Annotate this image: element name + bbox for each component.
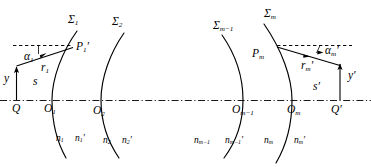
angle-label-alpha-1: α1 <box>24 51 34 64</box>
object-point-label-q: Q <box>12 103 20 115</box>
ray-point-label-p-1: P1′ <box>76 41 89 54</box>
surface-label-sigma-1: Σ1 <box>68 14 78 27</box>
refractive-index-label-n-2-prime: n2′ <box>122 136 132 146</box>
image-point-label-q-prime: Q′ <box>331 104 342 116</box>
refractive-index-label-n-m-1-prime: nm−1′ <box>225 136 243 146</box>
ray-point-label-p-m: Pm <box>252 48 264 61</box>
refractive-index-label-n-1-prime: n1′ <box>75 134 85 144</box>
image-distance-label-s-prime: s′ <box>313 81 320 93</box>
surface-label-sigma-m: Σm <box>264 8 276 21</box>
angle-label-alpha-m-prime: αm′ <box>325 45 339 58</box>
optical-ray-diagram: Σ1 Σ2 Σm−1 Σm P1′ Pm O1 O2 Om−1 Om Q Q′ … <box>0 0 371 167</box>
refractive-index-label-n-m: nm <box>264 136 273 146</box>
refractive-index-label-n-m-1: nm−1 <box>194 136 210 146</box>
radius-label-r-1: r1 <box>41 62 49 75</box>
object-height-label-y: y <box>4 73 9 85</box>
vertex-label-o-2: O2 <box>93 105 105 118</box>
alpha-m-prime-arrowhead <box>317 51 323 55</box>
vertex-label-o-m: Om <box>287 104 300 117</box>
vertex-label-o-m-1: Om−1 <box>232 104 254 117</box>
radius-label-r-m-prime: rm′ <box>301 60 313 73</box>
refractive-index-label-n-2: n2 <box>103 136 111 146</box>
refractive-index-label-n-1: n1 <box>56 134 64 144</box>
image-height-label-y-prime: y′ <box>348 70 356 82</box>
refractive-index-label-n-m-prime: nm′ <box>294 136 305 146</box>
object-distance-label-s: s <box>33 76 37 88</box>
surface-label-sigma-2: Σ2 <box>112 16 122 29</box>
vertex-label-o-1: O1 <box>44 103 56 116</box>
surface-label-sigma-m-1: Σm−1 <box>213 20 233 33</box>
